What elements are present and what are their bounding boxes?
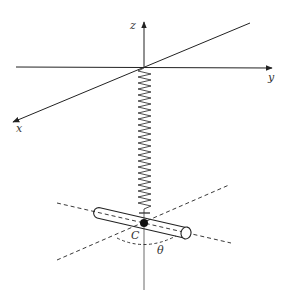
x-axis (13, 23, 250, 122)
y-axis-label: y (268, 72, 274, 83)
spring (138, 68, 151, 209)
x-axis-label: x (16, 123, 22, 134)
diagram-svg (0, 0, 291, 303)
diagram-canvas: z y x C θ (0, 0, 291, 303)
theta-arc (117, 236, 176, 245)
center-point (140, 219, 148, 227)
theta-label: θ (157, 245, 164, 256)
z-axis-label: z (130, 20, 136, 31)
center-label: C (131, 230, 139, 241)
